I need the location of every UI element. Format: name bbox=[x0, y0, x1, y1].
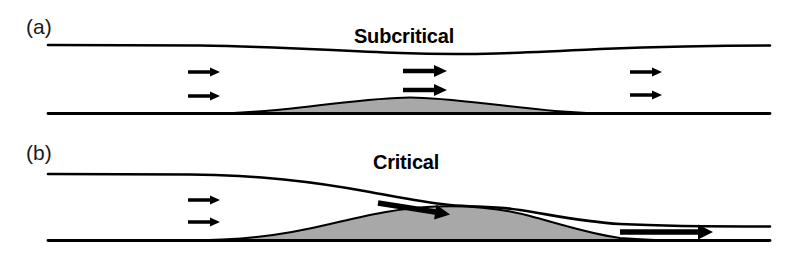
flow-arrow-crest-upper bbox=[403, 65, 447, 77]
flow-arrow-crest-lower bbox=[403, 84, 447, 96]
panel-a-label: (a) bbox=[26, 15, 52, 38]
figure-canvas: (a) Subcritical (b) Critical bbox=[0, 0, 808, 253]
panel-a-flow-arrows bbox=[188, 65, 662, 101]
flow-arrow-downstream-lower bbox=[630, 91, 662, 100]
panel-a-group: (a) Subcritical bbox=[26, 15, 770, 114]
flow-regime-figure: (a) Subcritical (b) Critical bbox=[0, 0, 808, 253]
flow-arrow-upstream-upper bbox=[188, 68, 220, 77]
flow-arrow-upstream-lower bbox=[188, 92, 220, 101]
flow-arrow-upstream-lower bbox=[188, 218, 220, 227]
flow-arrow-upstream-upper bbox=[188, 196, 220, 205]
panel-b-regime-label: Critical bbox=[373, 151, 439, 173]
panel-b-label: (b) bbox=[26, 141, 52, 164]
panel-a-bed-bump bbox=[200, 98, 620, 114]
panel-a-regime-label: Subcritical bbox=[354, 25, 454, 47]
panel-b-group: (b) Critical bbox=[26, 141, 770, 241]
flow-arrow-downstream-upper bbox=[630, 68, 662, 77]
